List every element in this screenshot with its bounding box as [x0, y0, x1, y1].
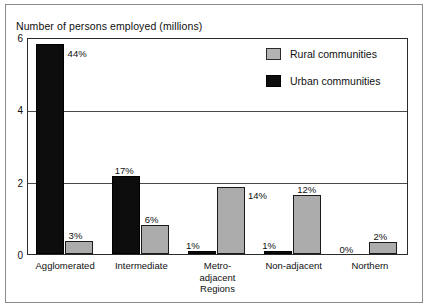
x-axis-category-label: Metro- adjacent Regions	[179, 260, 255, 295]
bar-value-label: 14%	[248, 190, 267, 201]
bar-value-label: 12%	[297, 184, 316, 195]
y-axis-tick-label: 6	[3, 33, 23, 44]
bar-value-label: 2%	[373, 231, 387, 242]
gridline	[28, 183, 407, 184]
bar-rural	[141, 225, 169, 254]
legend-item: Rural communities	[266, 47, 396, 60]
bar-value-label: 1%	[262, 240, 276, 251]
legend-label: Urban communities	[290, 75, 380, 87]
x-axis-category-label: Intermediate	[103, 260, 179, 272]
bar-rural	[293, 195, 321, 254]
chart-title: Number of persons employed (millions)	[16, 20, 202, 32]
y-axis-tick-label: 4	[3, 105, 23, 116]
legend-label: Rural communities	[290, 48, 377, 60]
x-axis-category-label: Non-adjacent	[256, 260, 332, 272]
chart-legend: Rural communitiesUrban communities	[266, 47, 396, 101]
legend-swatch-urban	[266, 75, 281, 87]
bar-urban	[36, 44, 64, 254]
legend-swatch-rural	[266, 48, 281, 60]
y-axis: 0246	[0, 38, 23, 255]
bar-rural	[217, 187, 245, 254]
bar-urban	[264, 251, 292, 254]
bar-rural	[369, 242, 397, 254]
bar-value-label: 1%	[186, 240, 200, 251]
y-axis-tick-label: 0	[3, 250, 23, 261]
legend-item: Urban communities	[266, 74, 396, 87]
bar-urban	[112, 176, 140, 254]
chart-figure: Number of persons employed (millions) 02…	[0, 0, 429, 308]
bar-urban	[188, 251, 216, 254]
bar-value-label: 44%	[68, 48, 87, 59]
bar-value-label: 6%	[145, 214, 159, 225]
gridline	[28, 111, 407, 112]
bar-value-label: 3%	[69, 230, 83, 241]
y-axis-tick-label: 2	[3, 177, 23, 188]
x-axis-category-label: Agglomerated	[27, 260, 103, 272]
bar-value-label: 0%	[339, 244, 353, 255]
x-axis-category-label: Northern	[332, 260, 408, 272]
bar-value-label: 17%	[115, 165, 134, 176]
bar-rural	[65, 241, 93, 254]
